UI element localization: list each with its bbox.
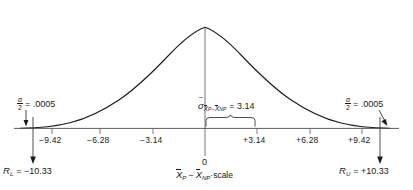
rl-value: = −10.33 (13, 166, 52, 176)
axis-tick-marks (52, 128, 362, 134)
tilde-accent: ~ (198, 94, 204, 102)
tick-label-plus-9-42: +9.42 (348, 136, 371, 145)
rl-symbol: R (3, 165, 10, 176)
alpha-denominator-left: 2 (17, 103, 23, 111)
tick-label-plus-6-28: +6.28 (296, 136, 319, 145)
alpha-half-right-label: α 2 = .0005 (345, 97, 383, 112)
alpha-value-right: = .0005 (351, 99, 383, 109)
right-alpha-arrowhead (381, 119, 387, 126)
lower-critical-value-label: RL= −10.33 (3, 166, 52, 177)
alpha-numerator-left: α (17, 96, 23, 103)
axis-origin-label: 0 (202, 158, 207, 167)
alpha-denominator-right: 2 (345, 103, 351, 111)
upper-critical-value-label: RU= +10.33 (339, 166, 389, 177)
sigma-brace (206, 115, 255, 127)
tick-label-minus-9-42: −9.42 (39, 136, 62, 145)
ru-value: = +10.33 (350, 166, 389, 176)
upper-critical-arrowhead (377, 157, 383, 165)
alpha-fraction-left: α 2 (17, 96, 23, 111)
tick-label-minus-3-14: −3.14 (140, 136, 163, 145)
normal-distribution-figure: α 2 = .0005 α 2 = .0005 ~σXP−XNP= 3.14 −… (0, 0, 413, 190)
lower-critical-arrowhead (30, 157, 36, 165)
sigma-sub-xbar-2: X (215, 106, 219, 113)
alpha-numerator-right: α (345, 96, 351, 103)
tick-label-minus-6-28: −6.28 (87, 136, 110, 145)
sigma-estimate-label: ~σXP−XNP= 3.14 (198, 101, 255, 113)
alpha-half-left-label: α 2 = .0005 (17, 97, 55, 112)
sigma-sub-xbar-1: X (204, 106, 208, 113)
left-alpha-arrowhead (24, 120, 29, 127)
sigma-subscript-group: XP−XNP (204, 106, 227, 112)
alpha-value-left: = .0005 (23, 99, 55, 109)
scale-minus: − (186, 170, 195, 180)
alpha-fraction-right: α 2 (345, 96, 351, 111)
sigma-value: = 3.14 (226, 101, 254, 111)
scale-xbar-2: X (196, 170, 202, 180)
scale-xbar-1: X (176, 170, 182, 180)
x-axis-scale-label: XP−XNP·scale (176, 170, 233, 181)
scale-suffix: ·scale (210, 170, 233, 180)
ru-symbol: R (339, 165, 346, 176)
tick-label-plus-3-14: +3.14 (243, 136, 266, 145)
